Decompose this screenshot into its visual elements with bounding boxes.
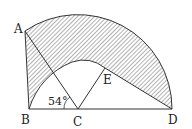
label-c: C [73,115,82,129]
label-e: E [103,73,112,87]
segment-ce [78,68,105,109]
label-d: D [168,113,178,127]
geometry-figure: A B C D E 54° [0,0,192,129]
angle-label: 54° [48,95,68,108]
label-b: B [21,113,30,127]
label-a: A [13,22,23,36]
